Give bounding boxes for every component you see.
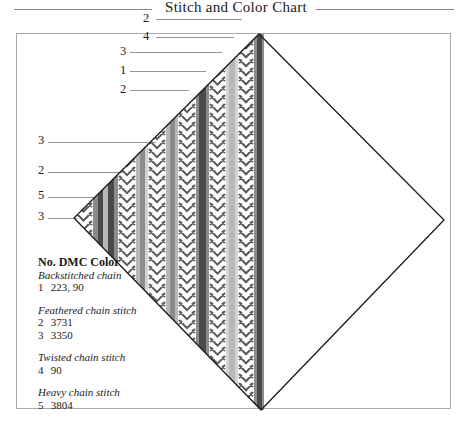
- leader-label: 3: [38, 209, 44, 224]
- legend-entry: 4 90: [38, 364, 137, 377]
- color-stripe: [257, 32, 262, 412]
- color-stripe: [140, 32, 145, 412]
- color-stripe: [229, 32, 235, 412]
- legend-header: No. DMC Color: [38, 256, 137, 269]
- color-legend: No. DMC Color Backstitched chain 1 223, …: [38, 256, 137, 411]
- color-stripe: [235, 32, 238, 412]
- legend-entry: 1 223, 90: [38, 281, 137, 294]
- leader-label: 2: [120, 82, 126, 97]
- color-stripe: [175, 32, 178, 412]
- color-stripe: [226, 32, 229, 412]
- color-stripe: [170, 32, 175, 412]
- leader-label: 4: [143, 29, 149, 44]
- leader-label: 1: [120, 63, 126, 78]
- color-stripe: [254, 32, 257, 412]
- chain-stitch-column: [238, 32, 254, 417]
- chain-stitch-column: [148, 32, 166, 418]
- color-stripe: [199, 32, 206, 412]
- legend-entry: 3 3350: [38, 329, 137, 342]
- color-stripe: [136, 32, 140, 412]
- legend-entry: 2 3731: [38, 316, 137, 329]
- leader-label: 2: [38, 163, 44, 178]
- color-stripe: [166, 32, 170, 412]
- legend-group-backstitched-chain: Backstitched chain: [38, 269, 137, 282]
- leader-label: 3: [120, 44, 126, 59]
- legend-group-heavy-chain: Heavy chain stitch: [38, 386, 137, 399]
- color-stripe: [145, 32, 148, 412]
- legend-entry: 5 3804: [38, 399, 137, 412]
- leader-label: 2: [143, 11, 149, 26]
- chain-stitch-column: [178, 32, 196, 418]
- color-stripe: [196, 32, 199, 412]
- legend-group-feathered-chain: Feathered chain stitch: [38, 304, 137, 317]
- legend-group-twisted-chain: Twisted chain stitch: [38, 351, 137, 364]
- leader-label: 3: [38, 133, 44, 148]
- leader-label: 5: [38, 188, 44, 203]
- color-stripe: [262, 32, 264, 412]
